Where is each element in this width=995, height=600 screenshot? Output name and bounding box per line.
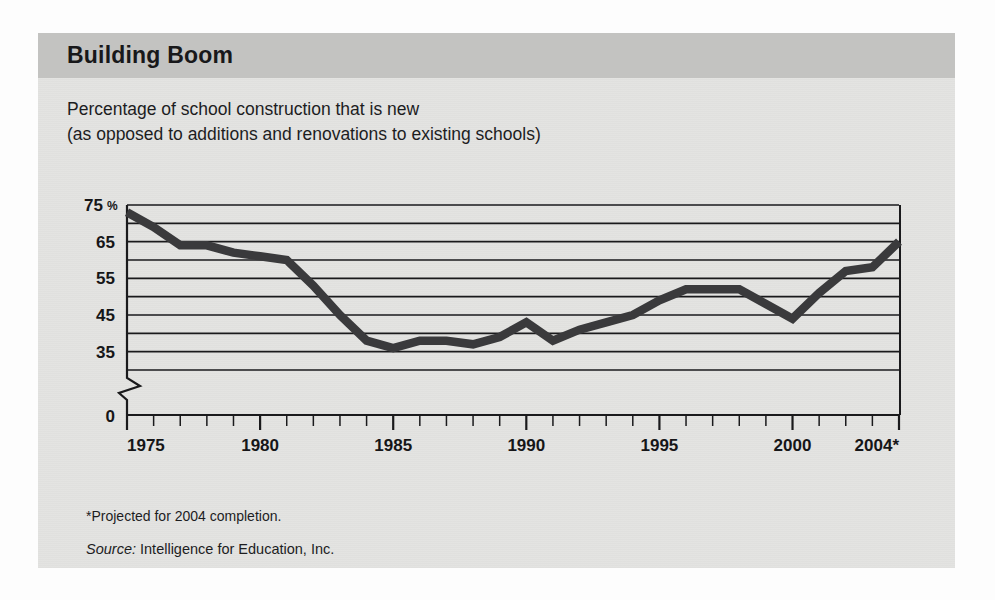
svg-text:0: 0 [106,407,115,426]
source-text: Intelligence for Education, Inc. [136,541,334,557]
svg-text:65: 65 [96,233,115,252]
svg-text:1980: 1980 [241,436,279,455]
svg-text:55: 55 [96,269,115,288]
chart-panel: Building Boom Percentage of school const… [38,33,955,568]
chart-gridlines [127,205,899,370]
svg-text:1995: 1995 [640,436,678,455]
source-label: Source: [86,541,136,557]
svg-text:75: 75 [84,196,103,215]
chart-x-tick-labels: 1975198019851990199520002004* [127,436,899,455]
svg-text:35: 35 [96,343,115,362]
chart-data-line [127,212,899,348]
svg-text:45: 45 [96,306,115,325]
svg-text:%: % [107,199,118,213]
svg-text:1990: 1990 [507,436,545,455]
svg-text:1985: 1985 [374,436,412,455]
chart-y-tick-labels: 75%655545350 [84,196,118,426]
chart-source: Source: Intelligence for Education, Inc. [86,541,334,557]
svg-text:2004*: 2004* [855,436,900,455]
line-chart-svg: 75%655545350 197519801985199019952000200… [38,33,955,568]
svg-text:1975: 1975 [127,436,165,455]
chart-footnote: *Projected for 2004 completion. [86,508,281,524]
chart-area: 75%655545350 197519801985199019952000200… [38,33,955,568]
svg-text:2000: 2000 [774,436,812,455]
chart-y-axis [119,205,140,415]
screenshot-root: Building Boom Percentage of school const… [0,0,995,600]
